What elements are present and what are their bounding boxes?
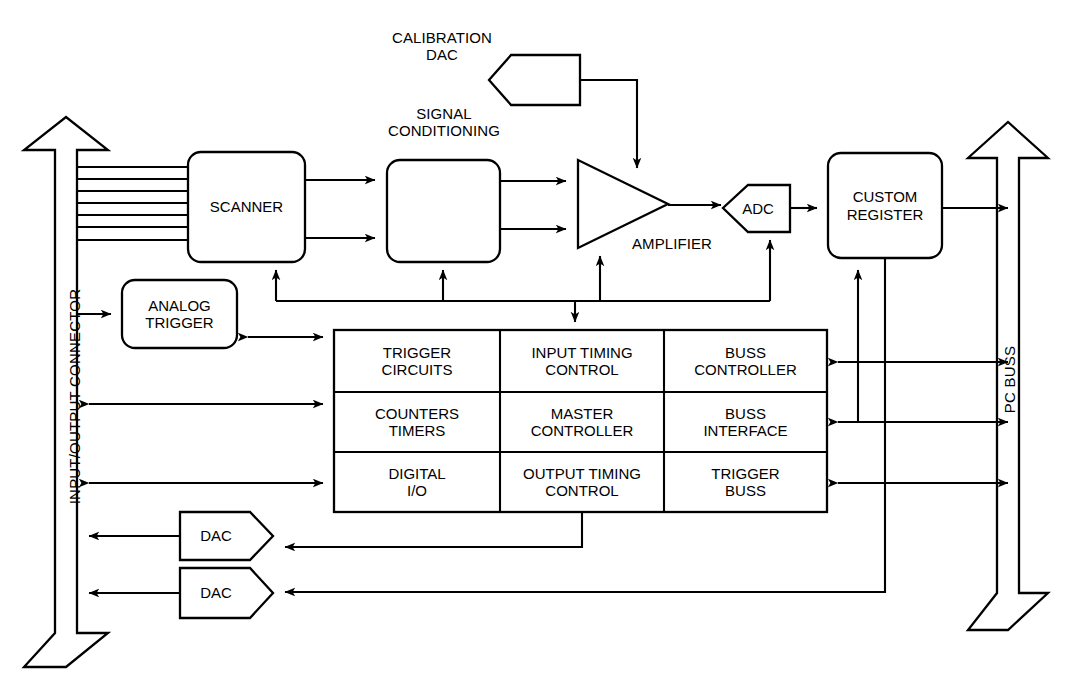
block-diagram: INPUT/OUTPUT CONNECTOR PC BUSS SCANNER S… (0, 0, 1087, 685)
grid-cell-master-controller: MASTER CONTROLLER (500, 392, 664, 452)
signal-conditioning-caption: SIGNAL CONDITIONING (338, 106, 550, 140)
custom-register-label: CUSTOM REGISTER (828, 153, 942, 258)
grid-cell-trigger-circuits: TRIGGER CIRCUITS (334, 330, 500, 392)
grid-cell-trigger-buss: TRIGGER BUSS (664, 452, 827, 512)
analog-trigger-label: ANALOG TRIGGER (122, 280, 237, 348)
grid-cell-counters-timers: COUNTERS TIMERS (334, 392, 500, 452)
grid-cell-buss-controller: BUSS CONTROLLER (664, 330, 827, 392)
grid-cell-digital-io: DIGITAL I/O (334, 452, 500, 512)
adc-label: ADC (727, 185, 789, 232)
signal-conditioning-box (387, 160, 500, 262)
grid-cell-output-timing-control: OUTPUT TIMING CONTROL (500, 452, 664, 512)
dac-1-label: DAC (180, 512, 252, 560)
grid-cell-buss-interface: BUSS INTERFACE (664, 392, 827, 452)
grid-cell-input-timing-control: INPUT TIMING CONTROL (500, 330, 664, 392)
scanner-label: SCANNER (188, 152, 305, 262)
calibration-dac-caption: CALIBRATION DAC (352, 30, 532, 64)
amplifier-caption: AMPLIFIER (602, 236, 742, 253)
left-connector-label: INPUT/OUTPUT CONNECTOR (66, 267, 83, 527)
dac-2-label: DAC (180, 568, 252, 618)
pc-buss-label: PC BUSS (1001, 315, 1018, 445)
